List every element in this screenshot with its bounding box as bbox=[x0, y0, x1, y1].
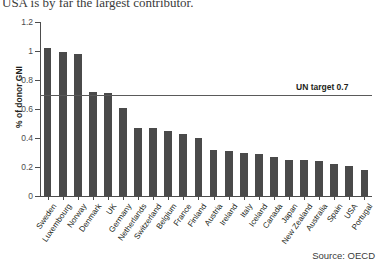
bar bbox=[59, 52, 67, 196]
un-target-label: UN target 0.7 bbox=[296, 82, 348, 92]
chart-headline: USA is by far the largest contributor. bbox=[2, 0, 381, 10]
y-tick-label: 1.2 bbox=[21, 17, 33, 27]
y-tick-label: 0.4 bbox=[21, 133, 33, 143]
y-tick-label: 0.2 bbox=[21, 162, 33, 172]
bar bbox=[74, 54, 82, 196]
y-tick-label: 0.8 bbox=[21, 75, 33, 85]
bar bbox=[44, 48, 52, 196]
y-axis-label: % of donor GNI bbox=[14, 52, 24, 142]
y-tick-label: 0.6 bbox=[21, 104, 33, 114]
y-tick bbox=[35, 196, 40, 197]
y-tick-label: 0 bbox=[28, 191, 33, 201]
y-tick-label: 1 bbox=[28, 46, 33, 56]
x-tick bbox=[48, 196, 49, 200]
chart-container: % of donor GNI 00.20.40.60.811.2 UN targ… bbox=[0, 14, 383, 265]
source-caption: Source: OECD bbox=[312, 250, 375, 261]
un-target-line bbox=[40, 95, 372, 97]
